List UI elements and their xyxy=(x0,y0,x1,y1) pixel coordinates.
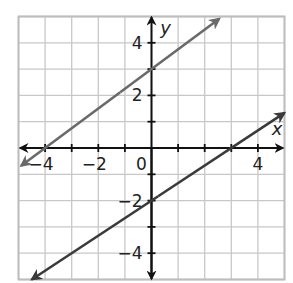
x-tick-label: 0 xyxy=(136,154,147,174)
axes xyxy=(21,18,283,279)
y-axis-label: y xyxy=(159,17,171,38)
x-tick-label: 4 xyxy=(252,154,263,174)
x-tick-label: −4 xyxy=(29,154,54,174)
y-tick-label: −2 xyxy=(117,191,142,211)
y-tick-label: 2 xyxy=(132,85,143,105)
coordinate-plane: −4−20442−2−4xy xyxy=(0,0,293,283)
data-lines xyxy=(21,19,284,280)
lower-line xyxy=(158,113,284,196)
y-tick-label: −4 xyxy=(117,243,142,263)
y-tick-label: 4 xyxy=(132,33,143,53)
x-axis-label: x xyxy=(271,118,283,139)
x-tick-label: −2 xyxy=(82,154,107,174)
